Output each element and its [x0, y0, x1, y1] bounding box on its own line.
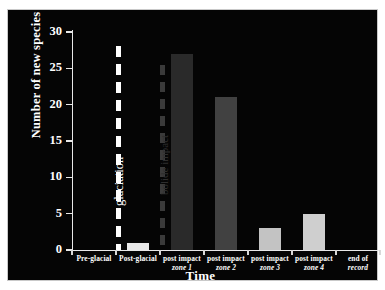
x-category-label-line1: post impact	[251, 254, 289, 263]
glaciation-dashed-line	[116, 46, 121, 250]
x-category-label-line1: post impact	[207, 254, 245, 263]
x-category-label-line1: end of	[348, 254, 368, 263]
bolide-impact-label: bolide impact	[158, 135, 170, 195]
x-category-label-line1: post impact	[295, 254, 333, 263]
x-category-label-line1: Post-glacial	[119, 254, 157, 263]
plot-area: 051015202530 glaciation bolide impact Pr…	[8, 10, 385, 290]
figure: Number of new species 051015202530 glaci…	[0, 0, 385, 290]
glaciation-label: glaciation	[112, 157, 127, 206]
x-category-label-line1: Pre-glacial	[76, 254, 111, 263]
x-axis-line	[72, 250, 380, 251]
bar-group	[8, 10, 385, 250]
bar	[215, 97, 238, 250]
chart-plate: Number of new species 051015202530 glaci…	[7, 9, 378, 281]
x-category-label-line1: post impact	[163, 254, 201, 263]
bar	[127, 243, 150, 250]
bar	[259, 228, 282, 250]
x-axis-title: Time	[8, 268, 385, 284]
bar	[303, 214, 326, 250]
bar	[171, 54, 194, 250]
